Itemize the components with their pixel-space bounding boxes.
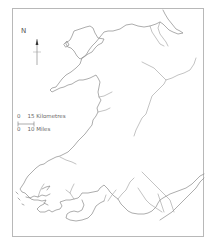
river-dee	[142, 58, 196, 80]
scale-mi-start: 0	[17, 126, 21, 132]
scale-km-start: 0	[17, 113, 21, 119]
north-label: N	[21, 28, 26, 35]
river-taff	[158, 194, 164, 212]
gower-coastline	[66, 200, 104, 221]
river-tywi	[118, 178, 134, 199]
river-loughor	[66, 184, 74, 199]
scale-mi-end: 10 Miles	[28, 126, 51, 132]
river-rheidol	[98, 108, 110, 112]
river-teifi	[60, 157, 76, 164]
river-dyfi	[99, 92, 112, 97]
river-usk	[138, 188, 162, 212]
wales-map	[0, 0, 212, 246]
scale-km-label: 0 15 Kilometres	[17, 114, 66, 120]
river-clwyd	[150, 26, 164, 46]
scale-km-end: 15 Kilometres	[28, 113, 66, 119]
scale-mi-label: 0 10 Miles	[17, 127, 50, 133]
river-conwy	[158, 22, 168, 46]
river-wye	[142, 172, 174, 212]
river-severn	[134, 80, 166, 136]
severn-estuary-north-shore	[160, 178, 204, 220]
mainland-coastline	[20, 10, 204, 214]
anglesey-coastline	[66, 26, 104, 59]
north-arrow-icon	[33, 39, 41, 65]
